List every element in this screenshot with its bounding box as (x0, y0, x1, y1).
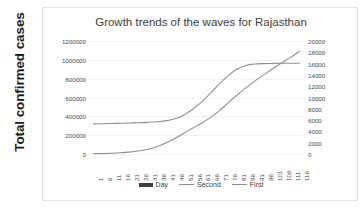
legend-swatch-bar-icon (139, 183, 153, 187)
chart-legend: DaySecondFirst (43, 181, 359, 188)
y-axis-right-tick-label: 4000 (308, 128, 348, 135)
y-axis-right-tick-label: 0 (308, 151, 348, 158)
plot-area (89, 41, 304, 154)
legend-item-day[interactable]: Day (139, 181, 168, 188)
y-axis-left-tick-label: 400000 (42, 113, 86, 120)
y-axis-right-tick-label: 16000 (308, 60, 348, 67)
y-axis-right-tick-label: 12000 (308, 83, 348, 90)
y-axis-right-tick-label: 20000 (308, 38, 348, 45)
chart-title: Growth trends of the waves for Rajasthan (43, 16, 359, 28)
series-line-first (93, 51, 299, 153)
y-axis-left-tick-label: 800000 (42, 75, 86, 82)
y-axis-left-tick-label: 200000 (42, 132, 86, 139)
y-axis-title: Total confirmed cases (8, 0, 30, 167)
legend-item-first[interactable]: First (232, 181, 264, 188)
legend-label: First (250, 181, 264, 188)
x-axis-ticks: 1611162126313641465156616671768186919610… (89, 155, 304, 181)
y-axis-right-ticks: 0200040006000800010000120001400016000180… (308, 41, 348, 154)
y-axis-left-tick-label: 1200000 (42, 38, 86, 45)
y-axis-right-tick-label: 6000 (308, 117, 348, 124)
y-axis-right-tick-label: 10000 (308, 94, 348, 101)
legend-swatch-line-icon (179, 184, 194, 185)
x-axis-tick-label: 116 (302, 155, 312, 181)
y-axis-left-tick-label: 600000 (42, 94, 86, 101)
legend-label: Day (156, 181, 168, 188)
y-axis-right-tick-label: 8000 (308, 105, 348, 112)
y-axis-left-tick-label: 1000000 (42, 56, 86, 63)
y-axis-right-tick-label: 2000 (308, 139, 348, 146)
legend-swatch-line-icon (232, 184, 247, 185)
legend-item-second[interactable]: Second (179, 181, 221, 188)
legend-label: Second (197, 181, 221, 188)
y-axis-right-tick-label: 14000 (308, 71, 348, 78)
series-line-second (93, 63, 299, 124)
y-axis-left-ticks: 020000040000060000080000010000001200000 (43, 41, 86, 154)
chart-plot-frame: Growth trends of the waves for Rajasthan… (42, 7, 358, 201)
y-axis-right-tick-label: 18000 (308, 49, 348, 56)
y-axis-left-tick-label: 0 (42, 151, 86, 158)
series-lines (89, 41, 304, 154)
chart-container: Total confirmed cases Growth trends of t… (0, 0, 364, 208)
